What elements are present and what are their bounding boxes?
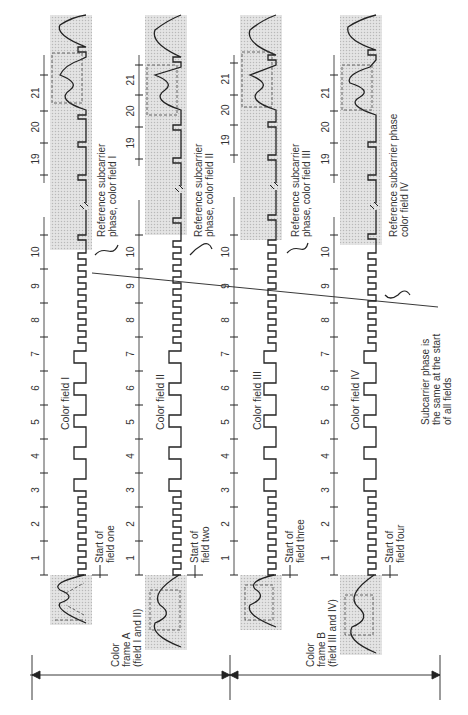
line-number: 1 [30, 555, 41, 561]
line-number: 8 [320, 317, 331, 323]
start-field-three-line2: field three [295, 519, 306, 563]
line-number: 6 [220, 385, 231, 391]
frame-a-line1: Color [110, 609, 121, 667]
line-number: 10 [30, 246, 41, 257]
field-2-waveform [145, 15, 187, 650]
ref-field-3-line1: Reference subcarrier [290, 144, 301, 237]
line-number: 10 [125, 246, 136, 257]
line-number: 9 [320, 283, 331, 289]
line-number: 10 [220, 246, 231, 257]
annotation-line1: Subcarrier phase is [420, 334, 431, 425]
line-number: 8 [125, 317, 136, 323]
start-field-four-line1: Start of [384, 525, 395, 563]
line-number: 9 [125, 283, 136, 289]
line-number: 7 [30, 351, 41, 357]
line-number: 2 [30, 521, 41, 527]
reference-phase-symbols [95, 243, 410, 298]
start-of-field-one-label: Start of field one [94, 525, 116, 563]
annotation-line3: of all fields [442, 334, 453, 425]
start-field-four-line2: field four [395, 525, 406, 563]
line-number: 2 [220, 521, 231, 527]
line-number: 1 [220, 555, 231, 561]
ref-field-1-line1: Reference subcarrier [96, 144, 107, 237]
line-number: 21 [30, 87, 41, 98]
field-1-waveform [50, 15, 92, 625]
line-number: 1 [320, 555, 331, 561]
annotation-line2: the same at the start [431, 334, 442, 425]
ref-field-4-line1: Reference subcarrier phase [388, 114, 399, 237]
ref-field-2-line2: phase, color field II [204, 144, 215, 237]
line-number: 19 [125, 137, 136, 148]
line-number: 2 [125, 521, 136, 527]
line-number: 5 [125, 419, 136, 425]
reference-phase-field-4-label: Reference subcarrier phase color field I… [388, 114, 410, 237]
line-number: 1 [125, 555, 136, 561]
line-number: 20 [320, 121, 331, 132]
line-number: 4 [30, 453, 41, 459]
line-number: 7 [220, 351, 231, 357]
color-frame-a-label: Color frame A (field I and II) [110, 609, 143, 667]
color-field-3-title: Color field III [252, 371, 263, 430]
line-number: 20 [220, 104, 231, 115]
line-number: 3 [220, 487, 231, 493]
line-number: 19 [30, 153, 41, 164]
diagram-canvas: Color frame A (field I and II) Color fra… [0, 0, 468, 715]
start-field-one-line2: field one [105, 525, 116, 563]
ref-field-1-line2: phase, color field I [107, 144, 118, 237]
color-field-2-title: Color field II [155, 374, 166, 430]
line-number: 5 [220, 419, 231, 425]
color-field-1-title: Color field I [60, 377, 71, 430]
start-of-field-three-label: Start of field three [284, 519, 306, 563]
line-number: 2 [320, 521, 331, 527]
line-number: 4 [320, 453, 331, 459]
line-number: 4 [220, 453, 231, 459]
color-frame-b-label: Color frame B (field III and IV) [305, 599, 338, 667]
frame-b-line3: (field III and IV) [327, 599, 338, 667]
line-number: 9 [30, 283, 41, 289]
line-number: 21 [125, 74, 136, 85]
line-number: 10 [320, 246, 331, 257]
frame-a-line3: (field I and II) [132, 609, 143, 667]
line-number: 21 [220, 73, 231, 84]
line-number: 6 [30, 385, 41, 391]
line-number: 5 [320, 419, 331, 425]
reference-phase-field-1-label: Reference subcarrier phase, color field … [96, 144, 118, 237]
field-4-waveform [340, 15, 382, 655]
start-field-three-line1: Start of [284, 519, 295, 563]
frame-a-line2: frame A [121, 609, 132, 667]
line-number: 6 [125, 385, 136, 391]
frame-b-line1: Color [305, 599, 316, 667]
line-number: 19 [220, 134, 231, 145]
frame-b-line2: frame B [316, 599, 327, 667]
subcarrier-phase-line [92, 273, 438, 307]
subcarrier-phase-annotation: Subcarrier phase is the same at the star… [420, 334, 453, 425]
line-number: 8 [30, 317, 41, 323]
frame-dimension-lines [30, 655, 440, 700]
start-field-two-line2: field two [200, 526, 211, 563]
line-number: 9 [220, 283, 231, 289]
start-field-two-line1: Start of [189, 526, 200, 563]
line-number: 7 [125, 351, 136, 357]
line-number: 19 [320, 153, 331, 164]
line-number: 7 [320, 351, 331, 357]
line-number: 20 [125, 105, 136, 116]
start-of-field-four-label: Start of field four [384, 525, 406, 563]
reference-phase-field-2-label: Reference subcarrier phase, color field … [193, 144, 215, 237]
ref-field-4-line2: color field IV [399, 114, 410, 237]
start-of-field-two-label: Start of field two [189, 526, 211, 563]
start-field-one-line1: Start of [94, 525, 105, 563]
line-number: 21 [320, 87, 331, 98]
line-number: 6 [320, 385, 331, 391]
line-number: 5 [30, 419, 41, 425]
ref-field-2-line1: Reference subcarrier [193, 144, 204, 237]
line-number: 20 [30, 121, 41, 132]
line-number: 4 [125, 453, 136, 459]
line-number: 3 [30, 487, 41, 493]
line-number: 3 [125, 487, 136, 493]
line-number: 3 [320, 487, 331, 493]
ref-field-3-line2: phase, color field III [301, 144, 312, 237]
reference-phase-field-3-label: Reference subcarrier phase, color field … [290, 144, 312, 237]
field-3-waveform [240, 15, 282, 630]
waveform-graphics [0, 0, 468, 715]
color-field-4-title: Color field IV [350, 370, 361, 430]
